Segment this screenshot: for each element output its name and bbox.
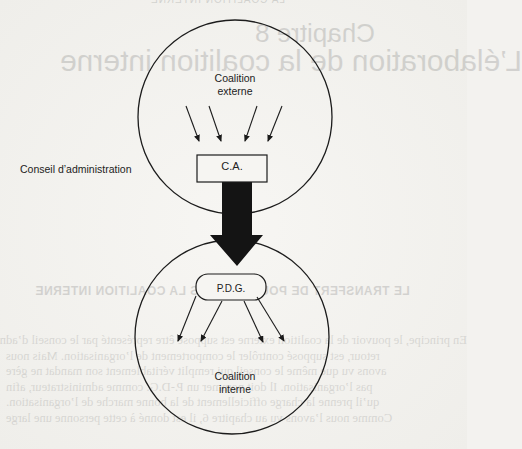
internal-coalition-circle — [135, 240, 329, 434]
external-coalition-label: Coalition externe — [205, 72, 265, 98]
ceo-label: P.D.G. — [196, 282, 266, 295]
label-line: Coalition — [205, 72, 265, 85]
power-transfer-arrow — [210, 182, 263, 266]
ceo-control-arrows — [178, 296, 284, 342]
label-line: Coalition — [205, 370, 265, 383]
external-influence-arrows — [186, 106, 282, 141]
label-line: externe — [205, 85, 265, 98]
label-line: interne — [205, 383, 265, 396]
board-side-label: Conseil d’administration — [20, 163, 220, 176]
internal-coalition-label: Coalition interne — [205, 370, 265, 396]
